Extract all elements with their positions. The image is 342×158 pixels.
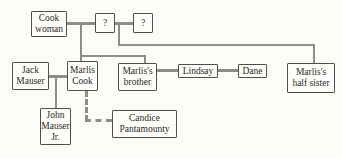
union-jack-marlis [49, 75, 67, 78]
node-unknown-1: ? [95, 13, 115, 33]
dashed-link-horizontal [85, 119, 112, 122]
descent-drop-john-mauser [55, 78, 57, 108]
node-dane: Dane [238, 64, 267, 78]
union-lindsay-dane [218, 69, 238, 72]
descent-halfsister-horizontal [118, 44, 315, 46]
node-candice-pantamounty: Candice Pantamounty [112, 110, 177, 138]
node-john-mauser-jr: John Mauser Jr. [40, 108, 71, 145]
node-marlis-half-sister: Marlis's half sister [287, 63, 335, 93]
node-marlis-cook: Marlis Cook [67, 61, 98, 91]
descent-qunion-vertical [118, 25, 120, 46]
node-lindsay: Lindsay [178, 64, 218, 78]
node-unknown-2: ? [133, 13, 153, 33]
family-tree-diagram: Cook woman ? ? Jack Mauser Marlis Cook M… [0, 0, 342, 158]
dashed-link-vertical [85, 91, 88, 121]
union-brother-lindsay [157, 69, 178, 72]
node-jack-mauser: Jack Mauser [12, 62, 49, 90]
sibling-bar [80, 55, 146, 57]
node-marlis-brother: Marlis's brother [118, 63, 157, 91]
node-cook-woman: Cook woman [31, 11, 67, 37]
descent-drop-marlis-brother [144, 55, 146, 63]
descent-drop-half-sister [313, 44, 315, 63]
